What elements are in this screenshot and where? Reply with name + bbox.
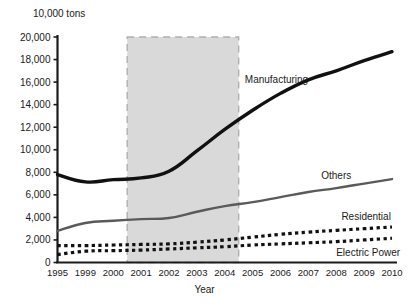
x-tick-label: 1995: [47, 267, 68, 278]
x-tick-label: 2009: [354, 267, 375, 278]
line-chart: 10,000 tons 02,0004,0006,0008,00010,0001…: [0, 0, 409, 307]
y-tick-label: 4,000: [25, 212, 50, 223]
x-tick-label: 2010: [381, 267, 402, 278]
y-tick-label: 16,000: [20, 77, 51, 88]
series-label-others: Others: [321, 170, 351, 181]
x-axis-title: Year: [0, 284, 409, 295]
x-tick-label: 2008: [326, 267, 347, 278]
y-tick-label: 10,000: [20, 144, 51, 155]
x-tick-label: 1999: [75, 267, 96, 278]
x-tick-label: 2004: [214, 267, 235, 278]
shaded-period-band: [127, 37, 239, 263]
x-tick-label: 2007: [298, 267, 319, 278]
series-label-residential: Residential: [341, 211, 390, 222]
x-tick-label: 2006: [270, 267, 291, 278]
x-tick-label: 2005: [242, 267, 263, 278]
y-axis-ticks: 02,0004,0006,0008,00010,00012,00014,0001…: [20, 32, 58, 269]
y-tick-label: 14,000: [20, 99, 51, 110]
x-tick-label: 2001: [131, 267, 152, 278]
y-tick-label: 2,000: [25, 234, 50, 245]
y-tick-label: 6,000: [25, 189, 50, 200]
y-tick-label: 8,000: [25, 167, 50, 178]
x-tick-label: 2000: [103, 267, 124, 278]
x-axis-ticks: 1995199920002001200220032004200520062007…: [47, 267, 403, 278]
series-label-manufacturing: Manufacturing: [245, 74, 308, 85]
x-tick-label: 2002: [158, 267, 179, 278]
y-tick-label: 18,000: [20, 54, 51, 65]
y-tick-label: 20,000: [20, 32, 51, 43]
chart-plot-area: 02,0004,0006,0008,00010,00012,00014,0001…: [0, 0, 409, 307]
x-tick-label: 2003: [186, 267, 207, 278]
series-label-electric-power: Electric Power: [336, 247, 401, 258]
y-tick-label: 12,000: [20, 122, 51, 133]
